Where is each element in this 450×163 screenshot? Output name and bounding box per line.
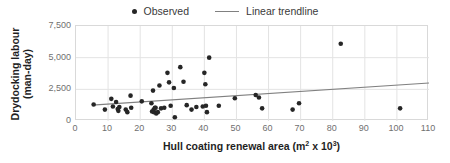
y-tick-label: 0 [27, 116, 71, 125]
data-point [205, 110, 210, 115]
y-axis-tick-labels: 02,5005,0007,500 [25, 25, 71, 120]
data-point [172, 86, 177, 91]
data-point [168, 104, 173, 109]
y-axis-title-line1: Drydocking labour [9, 28, 21, 121]
data-point [204, 104, 209, 109]
data-point [167, 80, 172, 85]
x-tick-label: 100 [388, 124, 403, 133]
legend-entry-observed: Observed [132, 6, 190, 17]
x-tick-label: 70 [295, 124, 305, 133]
x-tick-label: 60 [263, 124, 273, 133]
data-point [157, 83, 162, 88]
y-tick-label: 2,500 [27, 84, 71, 93]
data-point [111, 104, 116, 109]
x-axis-tick-labels: 0102030405060708090100110 [75, 124, 428, 136]
data-point [165, 71, 170, 76]
x-tick-label: 10 [102, 124, 112, 133]
data-point [398, 106, 403, 111]
x-axis-title: Hull coating renewal area (m2 x 103) [75, 140, 428, 152]
data-point [202, 71, 207, 76]
data-point [203, 82, 208, 87]
data-point [151, 88, 156, 93]
legend-label-trendline: Linear trendline [246, 6, 318, 17]
trendline-line-marker-icon [215, 11, 239, 12]
x-tick-label: 90 [359, 124, 369, 133]
data-point [103, 107, 108, 112]
data-point [129, 105, 134, 110]
gridlines [76, 26, 429, 121]
x-tick-label: 30 [166, 124, 176, 133]
data-point [338, 41, 343, 46]
data-point [156, 110, 161, 115]
data-point [162, 105, 167, 110]
data-point [297, 101, 302, 106]
data-point [194, 105, 199, 110]
legend-label-observed: Observed [144, 6, 190, 17]
observed-points [91, 41, 402, 119]
data-point [117, 105, 122, 110]
data-point [149, 101, 154, 106]
legend-entry-trendline: Linear trendline [215, 6, 318, 17]
data-point [260, 106, 265, 111]
data-point [178, 65, 183, 70]
data-point [257, 95, 262, 100]
data-point [189, 107, 194, 112]
observed-dot-marker-icon [132, 9, 137, 14]
data-point [217, 104, 222, 109]
data-point [91, 102, 96, 107]
data-point [128, 93, 133, 98]
data-point [114, 100, 119, 105]
x-tick-label: 80 [327, 124, 337, 133]
data-point [181, 79, 186, 84]
data-point [139, 99, 144, 104]
x-axis-title-base: Hull coating renewal area (m [163, 140, 305, 152]
y-tick-label: 5,000 [27, 52, 71, 61]
data-point [125, 110, 130, 115]
x-axis-title-mid: x 10 [309, 140, 332, 152]
data-point [184, 103, 189, 108]
plot-area [75, 25, 428, 120]
plot-canvas [76, 26, 429, 121]
x-tick-label: 0 [72, 124, 77, 133]
data-point [153, 105, 158, 110]
x-tick-label: 50 [230, 124, 240, 133]
x-tick-label: 110 [421, 124, 435, 133]
data-point [233, 96, 238, 101]
x-axis-title-end: ) [337, 140, 341, 152]
data-point [207, 55, 212, 60]
chart-legend: Observed Linear trendline [0, 2, 450, 20]
x-tick-label: 40 [198, 124, 208, 133]
x-tick-label: 20 [134, 124, 144, 133]
scatter-chart: Observed Linear trendline Drydocking lab… [0, 0, 450, 163]
data-point [290, 107, 295, 112]
data-point [109, 97, 114, 102]
data-point [173, 115, 178, 120]
y-tick-label: 7,500 [27, 21, 71, 30]
